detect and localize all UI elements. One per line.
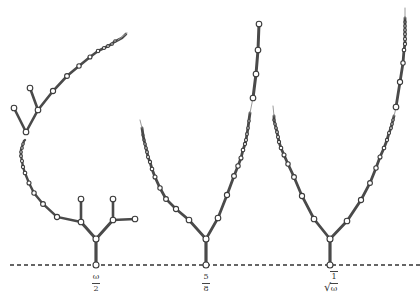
tree-five-eighths xyxy=(140,21,262,268)
tree-omega-half xyxy=(11,33,138,268)
label-numerator: ω xyxy=(92,273,101,281)
label-sqrt-inv-omega: √ 1 ω xyxy=(318,271,344,293)
label-omega-half: ω 2 xyxy=(89,273,103,293)
tree-sqrt-inv-omega xyxy=(273,8,407,268)
label-denominator: ω xyxy=(331,285,338,293)
label-five-eighths: 5 8 xyxy=(199,273,213,293)
label-denominator: 2 xyxy=(93,285,98,293)
label-numerator: 1 xyxy=(330,273,337,281)
label-numerator: 5 xyxy=(202,273,209,281)
diagram-canvas xyxy=(0,0,420,302)
label-denominator: 8 xyxy=(203,285,208,293)
